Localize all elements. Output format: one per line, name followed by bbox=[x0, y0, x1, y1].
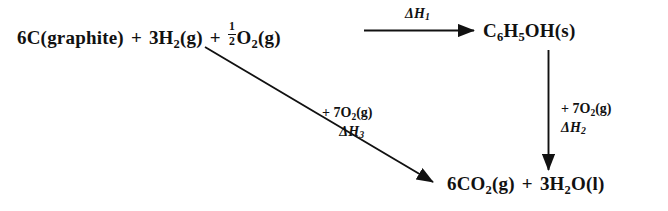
hess-cycle-figure: 6C(graphite)+3H2(g)+12O2(g) C6H5OH(s) 6C… bbox=[0, 0, 668, 211]
plus-sign: + bbox=[515, 174, 540, 193]
plus-sign: + bbox=[124, 28, 149, 47]
label-delta-h2: ΔH2 bbox=[561, 119, 611, 137]
label-oxygen-reagent-vertical: + 7O2(g) bbox=[561, 100, 611, 119]
combustion-products-expression: 6CO2(g)+3H2O(l) bbox=[447, 174, 605, 196]
reactant-hydrogen: 3H2(g) bbox=[149, 27, 203, 48]
label-delta-h3: ΔH3 bbox=[322, 123, 372, 141]
label-delta-h1: ΔH1 bbox=[405, 5, 430, 23]
product-water: 3H2O(l) bbox=[540, 173, 605, 194]
label-oxygen-reagent-diagonal: + 7O2(g) bbox=[322, 104, 372, 123]
label-group-diagonal: + 7O2(g) ΔH3 bbox=[322, 104, 372, 142]
reactant-graphite: 6C(graphite) bbox=[17, 27, 124, 48]
half-fraction: 12 bbox=[228, 21, 236, 48]
product-phenol: C6H5OH(s) bbox=[483, 21, 575, 43]
product-carbon-dioxide: 6CO2(g) bbox=[447, 173, 515, 194]
arrow-combustion-diagonal bbox=[205, 47, 433, 182]
label-group-vertical: + 7O2(g) ΔH2 bbox=[561, 100, 611, 138]
reactant-oxygen: 12O2(g) bbox=[228, 27, 281, 48]
reactants-expression: 6C(graphite)+3H2(g)+12O2(g) bbox=[17, 21, 281, 50]
plus-sign: + bbox=[203, 28, 228, 47]
